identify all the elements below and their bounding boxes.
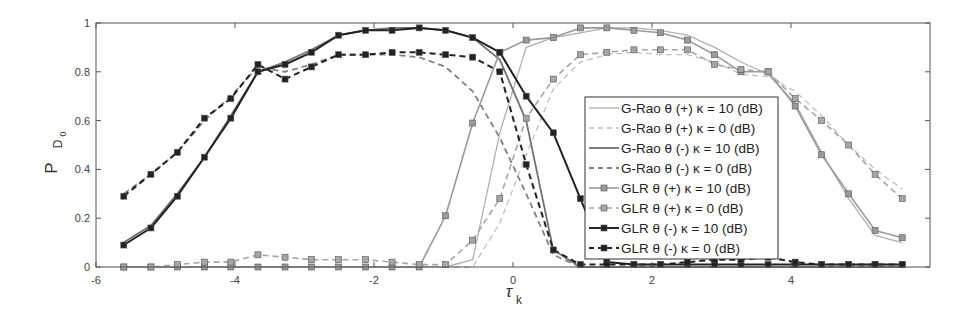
- data-point: [201, 154, 207, 160]
- data-point: [846, 142, 852, 148]
- data-point: [604, 49, 610, 55]
- data-point: [148, 225, 154, 231]
- data-point: [604, 25, 610, 31]
- data-point: [389, 27, 395, 33]
- y-tick-label: 0.4: [75, 163, 90, 175]
- data-point: [712, 61, 718, 67]
- legend-swatch-marker: [601, 205, 607, 211]
- data-point: [228, 259, 234, 265]
- data-point: [470, 120, 476, 126]
- y-tick-label: 1: [84, 17, 90, 29]
- legend-label: GLR θ (-) κ = 0 (dB): [621, 241, 740, 256]
- data-point: [389, 259, 395, 265]
- y-tick-label: 0: [84, 261, 90, 273]
- data-point: [657, 30, 663, 36]
- data-point: [631, 47, 637, 53]
- data-point: [738, 66, 744, 72]
- data-point: [550, 247, 556, 253]
- data-point: [550, 35, 556, 41]
- data-point: [174, 149, 180, 155]
- legend-swatch-marker: [601, 225, 607, 231]
- data-point: [255, 252, 261, 258]
- legend-label: GLR θ (+) κ = 10 (dB): [621, 181, 751, 196]
- data-point: [872, 227, 878, 233]
- y-axis-label: P D 0: [42, 131, 68, 173]
- data-point: [523, 37, 529, 43]
- data-point: [282, 61, 288, 67]
- data-point: [308, 49, 314, 55]
- data-point: [174, 193, 180, 199]
- data-point: [255, 69, 261, 75]
- data-point: [684, 37, 690, 43]
- data-point: [443, 213, 449, 219]
- chart: -6-4-202400.20.40.60.81 G-Rao θ (+) κ = …: [0, 0, 971, 316]
- data-point: [470, 237, 476, 243]
- y-axis-label-main: P: [42, 162, 61, 173]
- legend-label: G-Rao θ (-) κ = 10 (dB): [621, 141, 759, 156]
- data-point: [308, 64, 314, 70]
- data-point: [846, 191, 852, 197]
- data-point: [363, 27, 369, 33]
- y-axis-label-sub: D: [51, 139, 65, 148]
- data-point: [765, 69, 771, 75]
- data-point: [228, 115, 234, 121]
- data-point: [148, 171, 154, 177]
- data-point: [443, 52, 449, 58]
- data-point: [497, 69, 503, 75]
- data-point: [255, 61, 261, 67]
- data-point: [899, 235, 905, 241]
- data-point: [389, 49, 395, 55]
- data-point: [363, 52, 369, 58]
- data-point: [631, 27, 637, 33]
- data-point: [201, 259, 207, 265]
- data-point: [684, 47, 690, 53]
- legend-swatch-marker: [601, 185, 607, 191]
- x-axis-label-sub: k: [516, 293, 523, 307]
- legend-label: G-Rao θ (+) κ = 10 (dB): [621, 101, 763, 116]
- data-point: [657, 47, 663, 53]
- data-point: [577, 52, 583, 58]
- data-point: [792, 259, 798, 265]
- data-point: [363, 257, 369, 263]
- x-tick-label: -6: [91, 274, 101, 286]
- data-point: [523, 162, 529, 168]
- data-point: [523, 93, 529, 99]
- data-point: [550, 76, 556, 82]
- data-point: [308, 257, 314, 263]
- legend: G-Rao θ (+) κ = 10 (dB)G-Rao θ (+) κ = 0…: [585, 97, 778, 259]
- data-point: [684, 259, 690, 265]
- data-point: [872, 171, 878, 177]
- data-point: [416, 25, 422, 31]
- data-point: [712, 52, 718, 58]
- y-tick-label: 0.8: [75, 66, 90, 78]
- data-point: [577, 25, 583, 31]
- data-point: [819, 152, 825, 158]
- data-point: [416, 49, 422, 55]
- x-tick-label: 4: [788, 274, 794, 286]
- data-point: [792, 103, 798, 109]
- data-point: [336, 52, 342, 58]
- x-tick-label: 2: [649, 274, 655, 286]
- data-point: [577, 196, 583, 202]
- data-point: [121, 193, 127, 199]
- data-point: [282, 76, 288, 82]
- legend-label: GLR θ (-) κ = 10 (dB): [621, 221, 747, 236]
- plot-background: [96, 23, 930, 267]
- data-point: [443, 27, 449, 33]
- plot-area: [96, 23, 930, 267]
- data-point: [497, 196, 503, 202]
- legend-swatch-marker: [601, 245, 607, 251]
- y-tick-label: 0.6: [75, 115, 90, 127]
- data-point: [282, 254, 288, 260]
- legend-label: G-Rao θ (-) κ = 0 (dB): [621, 161, 752, 176]
- data-point: [336, 32, 342, 38]
- data-point: [470, 35, 476, 41]
- data-point: [899, 196, 905, 202]
- data-point: [792, 96, 798, 102]
- data-point: [497, 49, 503, 55]
- data-point: [121, 242, 127, 248]
- legend-label: GLR θ (+) κ = 0 (dB): [621, 201, 743, 216]
- data-point: [336, 257, 342, 263]
- data-point: [470, 54, 476, 60]
- y-axis-label-subsub: 0: [58, 131, 68, 136]
